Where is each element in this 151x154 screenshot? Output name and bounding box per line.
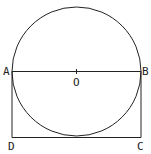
- geometry-diagram: A B O D C: [0, 0, 151, 154]
- label-b: B: [142, 65, 149, 78]
- label-o: O: [73, 76, 80, 89]
- label-a: A: [3, 65, 10, 78]
- label-d: D: [8, 140, 15, 153]
- label-c: C: [137, 140, 144, 153]
